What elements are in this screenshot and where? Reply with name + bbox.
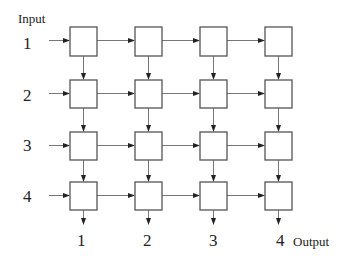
row-label-2: 2 <box>23 87 32 104</box>
col-label-2: 2 <box>143 232 152 249</box>
arrow-down-icon <box>146 175 151 182</box>
arrow-down-icon <box>146 218 151 225</box>
col-label-4: 4 <box>276 232 285 249</box>
input-label: Input <box>18 12 45 25</box>
arrow-right-icon <box>128 38 135 43</box>
processing-cell <box>265 132 292 160</box>
arrow-right-icon <box>63 143 70 148</box>
arrow-right-icon <box>128 91 135 96</box>
arrow-down-icon <box>146 125 151 132</box>
processing-cell <box>70 27 97 56</box>
processing-cell <box>200 132 227 160</box>
arrow-right-icon <box>63 38 70 43</box>
row-label-1: 1 <box>23 35 32 52</box>
processing-cell <box>265 27 292 56</box>
arrow-down-icon <box>81 125 86 132</box>
processing-cell <box>135 27 162 56</box>
processing-cell <box>200 27 227 56</box>
row-label-3: 3 <box>23 137 32 154</box>
arrow-down-icon <box>81 73 86 80</box>
row-label-4: 4 <box>23 188 32 205</box>
arrow-right-icon <box>128 143 135 148</box>
col-label-3: 3 <box>209 232 218 249</box>
processing-cell <box>200 182 227 210</box>
arrow-right-icon <box>193 193 200 198</box>
processing-cell <box>265 80 292 108</box>
processing-cell <box>70 132 97 160</box>
col-label-1: 1 <box>77 232 86 249</box>
arrow-right-icon <box>193 38 200 43</box>
output-label: Output <box>293 235 329 248</box>
processing-cell <box>265 182 292 210</box>
arrow-down-icon <box>276 125 281 132</box>
arrow-down-icon <box>81 175 86 182</box>
arrow-down-icon <box>211 218 216 225</box>
arrow-right-icon <box>258 91 265 96</box>
arrow-right-icon <box>258 38 265 43</box>
processor-grid <box>0 0 342 260</box>
arrow-down-icon <box>146 73 151 80</box>
arrow-right-icon <box>193 91 200 96</box>
arrow-down-icon <box>211 73 216 80</box>
arrow-down-icon <box>211 175 216 182</box>
arrow-right-icon <box>63 91 70 96</box>
processing-cell <box>70 80 97 108</box>
arrow-down-icon <box>276 73 281 80</box>
processing-cell <box>70 182 97 210</box>
arrow-right-icon <box>193 143 200 148</box>
arrow-down-icon <box>276 218 281 225</box>
arrow-down-icon <box>276 175 281 182</box>
arrow-down-icon <box>81 218 86 225</box>
arrow-right-icon <box>258 193 265 198</box>
arrow-right-icon <box>258 143 265 148</box>
processing-cell <box>135 132 162 160</box>
arrow-right-icon <box>128 193 135 198</box>
processing-cell <box>200 80 227 108</box>
arrow-right-icon <box>63 193 70 198</box>
processing-cell <box>135 80 162 108</box>
processing-cell <box>135 182 162 210</box>
arrow-down-icon <box>211 125 216 132</box>
